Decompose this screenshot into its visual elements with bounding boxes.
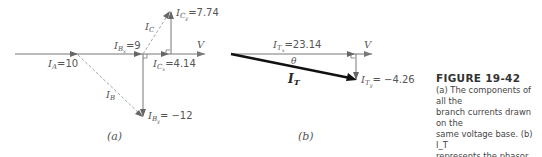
ibx-arrowhead-icon	[134, 51, 142, 57]
caption-line: represents the phasor sum of	[436, 151, 542, 157]
panel-a: IA=10 IBx=9 ICx=4.14 ICy=7.74 IC IB IBy=…	[15, 7, 219, 143]
label-v-a: V	[197, 39, 206, 50]
ib-vector-dashed	[78, 55, 141, 115]
ic-vector-dashed	[143, 13, 169, 54]
label-icx: ICx=4.14	[152, 58, 196, 72]
label-ic: IC	[144, 21, 155, 34]
icx-arrowhead-icon	[161, 51, 169, 57]
label-itx: ITx=23.14	[272, 39, 321, 53]
label-v-b: V	[364, 39, 373, 50]
label-it: IT	[287, 72, 301, 87]
caption-line: (a) The components of all the	[436, 85, 542, 107]
label-theta: θ	[291, 56, 297, 66]
label-ib: IB	[105, 89, 115, 102]
right-angle-mark	[143, 54, 147, 58]
figure-caption-text: (a) The components of all the branch cur…	[436, 85, 542, 157]
label-icy: ICy=7.74	[175, 7, 219, 22]
label-iby: IBy= −12	[147, 110, 193, 125]
panel-b: ITx=23.14 θ IT ITy= −4.26 V (b)	[231, 39, 415, 143]
caption-line: same voltage base. (b) I_T	[436, 129, 542, 151]
figure-title: FIGURE 19-42	[436, 72, 542, 84]
panel-a-label: (a)	[107, 130, 122, 143]
panel-b-label: (b)	[298, 130, 314, 143]
ia-arrowhead-icon	[70, 51, 78, 57]
figure-caption: FIGURE 19-42 (a) The components of all t…	[436, 72, 542, 157]
axis-arrowhead-icon	[197, 51, 205, 57]
axis-arrowhead-icon	[364, 51, 372, 57]
caption-line: branch currents drawn on the	[436, 107, 542, 129]
label-ity: ITy= −4.26	[360, 74, 415, 89]
label-ia: IA=10	[47, 58, 78, 71]
label-ibx: IBx=9	[113, 40, 141, 54]
